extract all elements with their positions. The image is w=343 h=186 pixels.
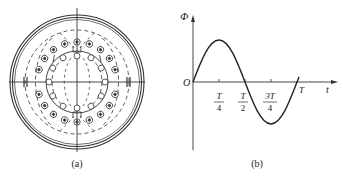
x-axis-label: t <box>326 84 329 95</box>
flux-graph: Φ O t T T 4 T 2 3T 4 <box>180 10 338 150</box>
fraction-numerator: T <box>216 91 222 101</box>
caption-a: (a) <box>71 158 82 170</box>
figure-canvas: (a) Φ O t T T 4 T 2 3T <box>0 0 343 186</box>
fraction-denominator: 4 <box>268 103 273 113</box>
fraction-numerator: 3T <box>264 91 276 101</box>
fraction-numerator: T <box>240 91 246 101</box>
tick-label-quarter: T 4 <box>214 91 224 113</box>
tick-label-half: T 2 <box>238 91 248 113</box>
period-label: T <box>299 85 305 95</box>
x-axis-arrow-icon <box>331 80 338 84</box>
caption-b: (b) <box>251 158 263 170</box>
machine-cross-section <box>9 8 145 152</box>
y-axis-label: Φ <box>180 10 189 22</box>
fraction-denominator: 4 <box>217 103 222 113</box>
fraction-denominator: 2 <box>241 103 246 113</box>
origin-label: O <box>183 77 190 88</box>
tick-label-three-quarter: 3T 4 <box>263 91 277 113</box>
y-axis-arrow-icon <box>191 15 195 22</box>
